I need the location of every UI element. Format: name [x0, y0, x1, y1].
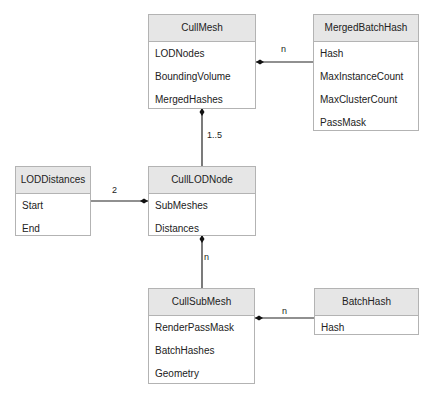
class-attribute: Geometry	[149, 362, 254, 385]
class-attribute: LODNodes	[149, 42, 255, 65]
class-attribute: MaxInstanceCount	[314, 65, 418, 88]
class-attribute: BatchHashes	[149, 339, 254, 362]
class-attribute: PassMask	[314, 111, 418, 134]
class-attribute: Hash	[314, 42, 418, 65]
class-cull-lod-node[interactable]: CullLODNode SubMeshes Distances	[148, 166, 256, 236]
class-mergedbatchhash[interactable]: MergedBatchHash Hash MaxInstanceCount Ma…	[313, 14, 419, 131]
class-title: MergedBatchHash	[314, 15, 418, 42]
class-title: LODDistances	[16, 167, 90, 194]
class-attribute: RenderPassMask	[149, 316, 254, 339]
class-attribute: End	[16, 217, 90, 240]
class-loddistances[interactable]: LODDistances Start End	[15, 166, 91, 236]
class-title: CullLODNode	[149, 167, 255, 194]
class-attribute: MergedHashes	[149, 88, 255, 111]
class-attribute: MaxClusterCount	[314, 88, 418, 111]
multiplicity-label: n	[282, 306, 287, 316]
class-title: CullMesh	[149, 15, 255, 42]
multiplicity-label: n	[204, 252, 209, 262]
class-attribute: SubMeshes	[149, 194, 255, 217]
class-title: CullSubMesh	[149, 289, 254, 316]
multiplicity-label: n	[281, 44, 286, 54]
class-batchhash[interactable]: BatchHash Hash	[314, 288, 419, 335]
class-cullsubmesh[interactable]: CullSubMesh RenderPassMask BatchHashes G…	[148, 288, 255, 384]
class-title: BatchHash	[315, 289, 418, 316]
class-cullmesh[interactable]: CullMesh LODNodes BoundingVolume MergedH…	[148, 14, 256, 109]
class-attribute: Hash	[315, 316, 418, 339]
class-attribute: Distances	[149, 217, 255, 240]
multiplicity-label: 2	[112, 185, 117, 195]
class-attribute: BoundingVolume	[149, 65, 255, 88]
multiplicity-label: 1..5	[207, 130, 222, 140]
class-attribute: Start	[16, 194, 90, 217]
